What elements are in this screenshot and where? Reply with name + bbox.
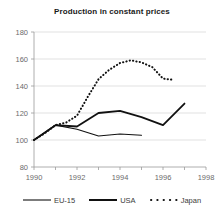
legend-entry-usa[interactable]: USA [89,196,135,205]
legend-swatch-usa-icon [89,197,117,203]
legend-swatch-japan-icon [150,197,178,203]
series-line-japan [34,60,174,140]
x-tick-label-1998: 1998 [198,173,215,182]
legend-label-eu-15: EU-15 [54,196,75,205]
data-series [34,60,185,140]
y-tickmarks [31,32,34,167]
legend-label-usa: USA [120,196,135,205]
x-tick-label-1996: 1996 [155,173,172,182]
x-tickmarks [34,167,206,170]
chart-container: Production in constant prices [0,0,224,218]
plot-area: 180 160 140 120 100 80 1990 1992 1994 19… [0,0,224,218]
axis-lines [34,32,206,167]
chart-legend: EU-15 USA Japan [0,190,224,210]
legend-label-japan: Japan [181,196,201,205]
x-tick-labels: 1990 1992 1994 1996 1998 [26,173,215,182]
x-tick-label-1992: 1992 [69,173,86,182]
legend-entry-eu-15[interactable]: EU-15 [23,196,75,205]
x-tick-label-1994: 1994 [112,173,129,182]
legend-entry-japan[interactable]: Japan [150,196,201,205]
y-tick-label-120: 120 [15,109,28,118]
y-tick-labels: 180 160 140 120 100 80 [15,28,28,172]
series-line-eu-15 [34,125,142,140]
y-tick-label-180: 180 [15,28,28,37]
y-tick-label-80: 80 [20,163,28,172]
legend-swatch-eu-15-icon [23,197,51,203]
x-tick-label-1990: 1990 [26,173,43,182]
y-tick-label-100: 100 [15,136,28,145]
y-tick-label-160: 160 [15,55,28,64]
y-tick-label-140: 140 [15,82,28,91]
